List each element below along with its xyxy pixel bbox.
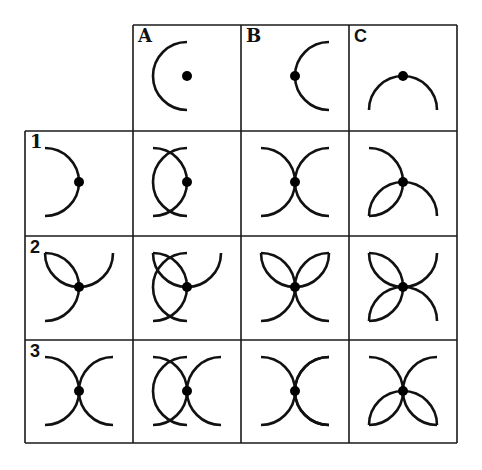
grid-lines [0,0,482,470]
figure-grid: ABC123 [0,0,482,470]
